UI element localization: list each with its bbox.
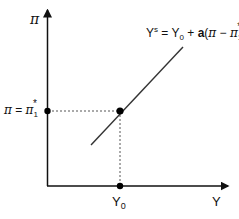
x-axis-label: Y	[212, 194, 221, 209]
curve-equation: Ys = Y0 + a(π − π1*)	[146, 21, 239, 42]
equilibrium-point	[116, 107, 123, 114]
supply-curve	[91, 47, 183, 145]
x-axis-point	[117, 183, 123, 189]
pi-star-label: π = π1*	[3, 98, 38, 119]
supply-diagram: π Y Y0 π = π1* Ys = Y0 + a(π − π1*)	[0, 0, 239, 219]
y-axis-point	[44, 108, 50, 114]
y0-label: Y0	[112, 194, 126, 211]
y-axis-label: π	[29, 11, 40, 27]
